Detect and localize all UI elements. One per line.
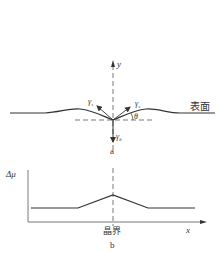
grain-boundary-label: 晶界	[103, 226, 121, 236]
theta-label: θ	[134, 112, 138, 121]
figure-b: Δμ 晶界 x b	[5, 168, 207, 250]
gamma-s-left-label: γs	[88, 97, 93, 107]
gamma-s-right-label: γs	[135, 99, 140, 109]
gamma-s-left-arrow	[97, 106, 113, 120]
gamma-b-label: γb	[116, 132, 122, 142]
caption-b: b	[110, 240, 115, 250]
y-axis-label: y	[116, 59, 121, 69]
grain-boundary-groove-diagram: y 表面 γs γs θ γb a Δμ 晶界 x b	[0, 0, 224, 253]
caption-a: a	[110, 146, 114, 156]
theta-arc	[131, 113, 133, 120]
x-axis-arrowhead	[200, 220, 207, 224]
figure-a: y 表面 γs γs θ γb a	[10, 59, 215, 156]
surface-label: 表面	[190, 100, 210, 112]
delta-mu-label: Δμ	[5, 169, 16, 179]
x-axis-label: x	[185, 225, 190, 235]
surface-profile	[10, 109, 215, 120]
y-axis-arrowhead	[111, 60, 115, 67]
